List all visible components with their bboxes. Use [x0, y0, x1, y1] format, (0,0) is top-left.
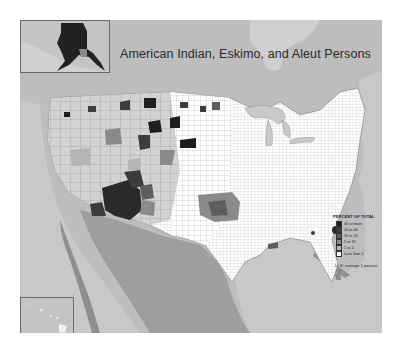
legend-label: 5 to 10 — [344, 240, 356, 244]
legend-item-less-than-1: Less than 1 — [329, 251, 382, 257]
legend-label: Less than 1 — [344, 252, 364, 256]
hawaii-map — [21, 298, 73, 333]
legend-swatch — [336, 251, 342, 257]
alaska-map — [21, 21, 109, 72]
legend: PERCENT OF TOTAL 40 or more 20 to 40 10 … — [329, 214, 382, 268]
map-title: American Indian, Eskimo, and Aleut Perso… — [120, 47, 371, 61]
legend-note: U. S. average 1 percent — [335, 263, 382, 268]
map-frame: American Indian, Eskimo, and Aleut Perso… — [20, 20, 382, 333]
legend-label: 20 to 40 — [344, 228, 358, 232]
alaska-inset — [20, 20, 110, 73]
legend-label: 40 or more — [344, 222, 362, 226]
legend-label: 10 to 20 — [344, 234, 358, 238]
legend-label: 1 to 5 — [344, 246, 354, 250]
hawaii-inset — [20, 297, 74, 333]
legend-title: PERCENT OF TOTAL — [333, 214, 382, 219]
